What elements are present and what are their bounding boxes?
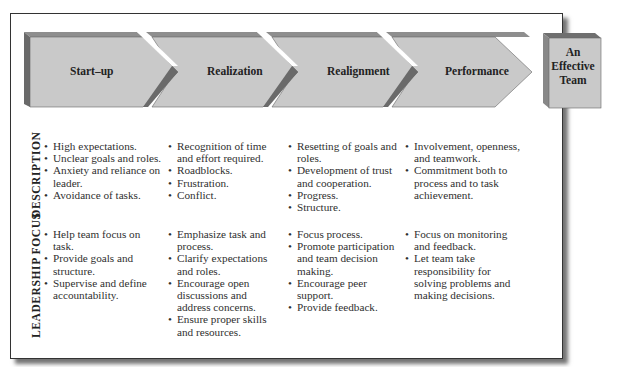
list-item: Focus process. bbox=[288, 228, 400, 240]
list-item: Avoidance of tasks. bbox=[44, 189, 164, 201]
list-item: Involvement, openness, and teamwork. bbox=[405, 140, 527, 164]
list-item: Promote participation and team decision … bbox=[288, 240, 400, 277]
description-col-realization: Recognition of time and effort required.… bbox=[168, 140, 280, 201]
goal-label: An Effective Team bbox=[545, 45, 601, 87]
list-item: High expectations. bbox=[44, 140, 164, 152]
list-item: Help team focus on task. bbox=[44, 228, 156, 252]
stage-label-realization: Realization bbox=[207, 65, 263, 77]
list-item: Progress. bbox=[288, 189, 400, 201]
list-item: Recognition of time and effort required. bbox=[168, 140, 280, 164]
list-item: Emphasize task and process. bbox=[168, 228, 280, 252]
list-item: Roadblocks. bbox=[168, 164, 280, 176]
list-item: Unclear goals and roles. bbox=[44, 152, 164, 164]
row-label-description: DESCRIPTION bbox=[30, 132, 42, 218]
leadership-col-realignment: Focus process. Promote participation and… bbox=[288, 228, 400, 313]
list-item: Commitment both to process and to task a… bbox=[405, 164, 527, 201]
goal-line: An bbox=[545, 45, 601, 59]
list-item: Resetting of goals and roles. bbox=[288, 140, 400, 164]
leadership-col-start-up: Help team focus on task. Provide goals a… bbox=[44, 228, 156, 301]
description-col-start-up: High expectations. Unclear goals and rol… bbox=[44, 140, 164, 201]
goal-line: Effective bbox=[545, 59, 601, 73]
leadership-col-realization: Emphasize task and process. Clarify expe… bbox=[168, 228, 280, 338]
list-item: Provide goals and structure. bbox=[44, 252, 156, 276]
goal-line: Team bbox=[545, 73, 601, 87]
leadership-col-performance: Focus on monitoring and feedback. Let te… bbox=[405, 228, 517, 301]
list-item: Ensure proper skills and resources. bbox=[168, 313, 280, 337]
stage-label-performance: Performance bbox=[445, 65, 509, 77]
list-item: Provide feedback. bbox=[288, 301, 400, 313]
list-item: Development of trust and cooperation. bbox=[288, 164, 400, 188]
list-item: Let team take responsibility for solving… bbox=[405, 252, 517, 301]
stage-label-realignment: Realignment bbox=[327, 65, 390, 77]
list-item: Anxiety and reliance on leader. bbox=[44, 164, 164, 188]
list-item: Structure. bbox=[288, 201, 400, 213]
description-col-realignment: Resetting of goals and roles. Developmen… bbox=[288, 140, 400, 213]
list-item: Encourage open discussions and address c… bbox=[168, 277, 280, 314]
list-item: Clarify expectations and roles. bbox=[168, 252, 280, 276]
list-item: Conflict. bbox=[168, 189, 280, 201]
list-item: Encourage peer support. bbox=[288, 277, 400, 301]
list-item: Frustration. bbox=[168, 177, 280, 189]
row-label-leadership-focus: LEADERSHIP FOCUS bbox=[30, 212, 42, 338]
list-item: Supervise and define accountability. bbox=[44, 277, 156, 301]
stage-label-start-up: Start–up bbox=[70, 65, 113, 77]
list-item: Focus on monitoring and feedback. bbox=[405, 228, 517, 252]
description-col-performance: Involvement, openness, and teamwork. Com… bbox=[405, 140, 527, 201]
